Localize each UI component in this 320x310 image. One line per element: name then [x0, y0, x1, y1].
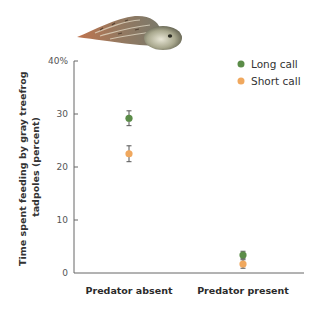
data-point [125, 111, 132, 126]
y-tick-label: 40% [48, 56, 68, 66]
y-tick-label: 10 [57, 215, 69, 225]
legend-label-short-call: Short call [251, 75, 301, 87]
data-point [239, 260, 246, 268]
data-point [239, 251, 246, 258]
legend-swatch-short-call [238, 78, 245, 85]
data-points [125, 111, 246, 268]
data-point [125, 146, 132, 162]
x-category-predator-present: Predator present [197, 285, 289, 296]
chart: 010203040% Predator absent Predator pres… [0, 0, 320, 310]
x-category-predator-absent: Predator absent [86, 285, 173, 296]
x-axis: Predator absent Predator present [74, 273, 304, 296]
tadpole-illustration [77, 16, 182, 50]
legend-swatch-long-call [238, 61, 245, 68]
y-tick-label: 20 [57, 162, 69, 172]
legend: Long call Short call [238, 58, 301, 87]
y-axis-label: Time spent feeding by gray treefrog tadp… [17, 68, 41, 266]
y-tick-label: 30 [57, 109, 69, 119]
y-tick-label: 0 [62, 268, 68, 278]
y-axis: 010203040% [48, 56, 78, 278]
legend-label-long-call: Long call [251, 58, 298, 70]
